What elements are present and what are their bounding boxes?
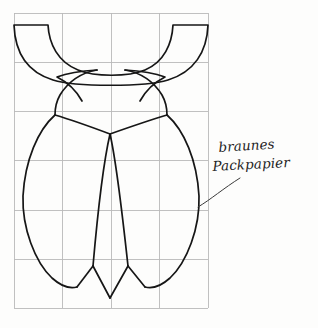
left-elytron-bottom-tip	[77, 266, 93, 287]
elytra-seam-right-top	[110, 115, 167, 134]
scaling-grid	[14, 13, 208, 308]
right-elytron-bottom-tip	[128, 266, 145, 287]
leader-line	[198, 178, 240, 207]
right-elytron-inner-seam	[110, 134, 128, 266]
pattern-sheet-page: braunes Packpapier	[0, 0, 318, 328]
right-elytron-outline	[145, 115, 199, 288]
elytra-seam-left-top	[55, 115, 110, 134]
left-elytron-outline	[23, 115, 77, 288]
right-abdomen-bottom-edge	[110, 266, 128, 298]
material-note-line-1: braunes	[218, 136, 275, 155]
left-abdomen-bottom-edge	[93, 266, 110, 298]
left-elytron-inner-seam	[93, 134, 110, 266]
